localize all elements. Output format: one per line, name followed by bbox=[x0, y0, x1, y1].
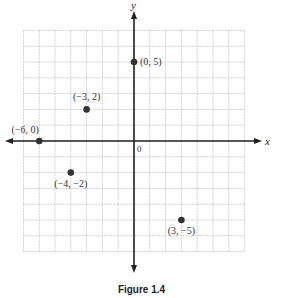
point-label: (−3, 2) bbox=[73, 91, 100, 103]
x-axis-arrow-left-icon bbox=[5, 138, 13, 144]
coordinate-plane: x y 0 (0, 5)(−3, 2)(−6, 0)(−4, −2)(3, −5… bbox=[0, 0, 283, 298]
point-label: (3, −5) bbox=[168, 225, 195, 237]
point-label: (−4, −2) bbox=[54, 178, 87, 190]
point-label: (−6, 0) bbox=[12, 124, 39, 136]
axes: x y 0 bbox=[5, 0, 270, 273]
figure-caption: Figure 1.4 bbox=[0, 284, 283, 295]
y-axis-arrow-down-icon bbox=[131, 265, 137, 273]
x-axis-arrow-right-icon bbox=[254, 138, 262, 144]
y-axis-label: y bbox=[130, 0, 136, 11]
data-point bbox=[83, 106, 90, 113]
data-point bbox=[131, 59, 138, 66]
y-axis-arrow-up-icon bbox=[131, 11, 137, 19]
data-point bbox=[178, 217, 185, 224]
data-point bbox=[36, 138, 43, 145]
point-label: (0, 5) bbox=[140, 56, 162, 68]
data-point bbox=[68, 169, 75, 176]
x-axis-label: x bbox=[264, 135, 270, 147]
origin-label: 0 bbox=[137, 144, 142, 154]
